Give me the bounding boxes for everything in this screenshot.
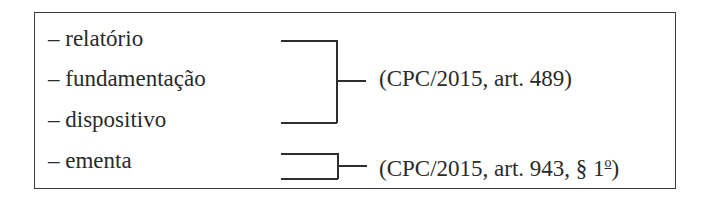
reference-text: (CPC/2015, art. 943, § 1	[379, 156, 605, 181]
item-label: fundamentação	[65, 66, 205, 91]
bracket-2-stub	[337, 165, 367, 167]
list-item-relatorio: – relatório	[48, 26, 143, 52]
bracket-2-top-line	[281, 153, 338, 155]
closing-paren: )	[612, 156, 620, 181]
reference-art-943: (CPC/2015, art. 943, § 1o)	[379, 150, 619, 182]
bracket-1-top-line	[281, 40, 337, 42]
ordinal-indicator: o	[605, 155, 612, 170]
bracket-2-bottom-line	[281, 178, 338, 180]
bracket-1-bottom-line	[281, 122, 337, 124]
item-label: relatório	[65, 26, 143, 51]
list-item-dispositivo: – dispositivo	[48, 107, 166, 133]
reference-art-489: (CPC/2015, art. 489)	[379, 66, 572, 92]
dash: –	[48, 26, 60, 51]
dash: –	[48, 66, 60, 91]
dash: –	[48, 148, 60, 173]
bracket-1-vertical	[336, 40, 338, 123]
bracket-1-stub	[336, 80, 366, 82]
list-item-ementa: – ementa	[48, 148, 132, 174]
item-label: dispositivo	[65, 107, 166, 132]
item-label: ementa	[65, 148, 131, 173]
list-item-fundamentacao: – fundamentação	[48, 66, 206, 92]
dash: –	[48, 107, 60, 132]
